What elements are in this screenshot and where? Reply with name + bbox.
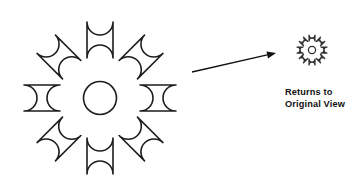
large-rosette-hub	[84, 82, 117, 115]
small-rosette-hub	[308, 46, 315, 53]
diagram-canvas: Returns to Original View	[0, 0, 349, 195]
caption-line-2: Original View	[285, 99, 346, 109]
flower-transition-diagram: Returns to Original View	[0, 0, 349, 195]
caption-line-1: Returns to	[285, 87, 333, 97]
background	[0, 0, 349, 195]
